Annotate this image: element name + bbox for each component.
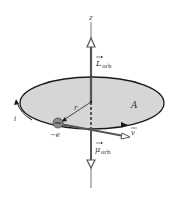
current-arrowhead-icon [14, 99, 19, 105]
area-label: A [130, 100, 138, 110]
mu-orb-symbol: μ [95, 145, 100, 154]
velocity-arrowhead-icon [121, 133, 130, 139]
orbit-diagram: z r A i v −e L orb μ orb [0, 0, 173, 198]
L-orb-symbol: L [95, 59, 101, 68]
z-axis-label: z [88, 14, 93, 22]
current-label: i [14, 115, 16, 123]
mu-orb-subscript: orb [101, 149, 111, 155]
charge-label: −e [50, 131, 60, 139]
center-dot [90, 101, 92, 103]
L-orb-arrowhead-icon [87, 38, 95, 47]
mu-orb-arrowhead-icon [87, 160, 95, 168]
L-orb-subscript: orb [102, 63, 112, 69]
L-overarrow-head-icon [101, 56, 103, 58]
velocity-label: v [131, 129, 135, 137]
mu-overarrow-head-icon [101, 142, 103, 144]
